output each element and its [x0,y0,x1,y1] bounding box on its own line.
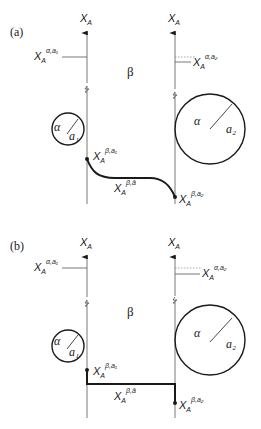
left-axis-label: XA [79,236,92,250]
panel-a-label: (a) [10,25,23,39]
mean-field-label: XAβ,ā [113,179,136,196]
large-particle-b: α a₂ [175,305,245,375]
right-interface-label: XAβ,a₂ [178,396,204,413]
mean-field-label: XAβ,ā [113,387,136,404]
left-interface-label: XAβ,a₁ [92,362,118,379]
right-axis-label: XA [167,12,180,26]
panel-b: (b) XA XAα,a₁ XA XAα,a₂ β α a₁ [10,236,245,418]
left-equilibrium-label: XAα,a₁ [33,47,59,64]
right-axis-a: XA XAα,a₂ [167,12,218,204]
left-axis-b: XA XAα,a₁ [33,236,92,418]
right-interface-label: XAβ,a₂ [178,190,204,207]
left-interface-point [85,157,89,161]
diagram-canvas: (a) XA XAα,a₁ XA XAα,a₂ β α a₁ [0,0,261,429]
small-particle-a: α a₁ [52,113,84,145]
left-axis-a: XA XAα,a₁ [33,12,92,204]
right-interface-point [173,401,177,405]
right-equilibrium-label: XAα,a₂ [201,264,227,281]
right-equilibrium-label: XAα,a₂ [192,53,218,70]
large-particle-a: α a₂ [175,94,245,164]
concentration-profile-curve [87,159,175,197]
left-interface-point [85,368,89,372]
right-axis-label: XA [167,236,180,250]
radius-a1-label: a₁ [69,345,79,359]
left-axis-label: XA [79,12,92,26]
panel-b-label: (b) [10,239,24,253]
radius-a2-label: a₂ [226,337,236,351]
panel-a: (a) XA XAα,a₁ XA XAα,a₂ β α a₁ [10,12,245,207]
alpha-label: α [54,120,61,134]
radius-a2-label: a₂ [226,122,236,136]
alpha-label: α [194,326,201,340]
beta-phase-label: β [127,304,134,319]
left-interface-label: XAβ,a₁ [92,147,118,164]
right-interface-point [173,195,177,199]
alpha-label: α [194,114,201,128]
small-particle-b: α a₁ [52,330,84,362]
left-equilibrium-label: XAα,a₁ [33,258,59,275]
beta-phase-label: β [127,64,134,79]
alpha-label: α [54,334,61,348]
radius-a1-label: a₁ [69,129,79,143]
